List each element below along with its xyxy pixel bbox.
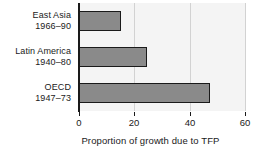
x-tick-0 [79, 112, 80, 116]
category-label-line2: 1947–73 [0, 93, 71, 104]
bar-2 [79, 83, 210, 103]
x-tick-40 [190, 112, 191, 116]
x-tick-label-0: 0 [64, 117, 94, 129]
category-label-east-asia: East Asia 1966–90 [0, 10, 71, 31]
category-label-latin-america: Latin America 1940–80 [0, 46, 71, 67]
x-tick-label-40: 40 [175, 117, 205, 129]
x-tick-60 [245, 112, 246, 116]
x-tick-label-60: 60 [230, 117, 257, 129]
category-label-line2: 1940–80 [0, 57, 71, 68]
bar-1 [79, 47, 147, 67]
category-label-line1: East Asia [0, 10, 71, 21]
x-axis-title-text: Proportion of growth due to TFP [37, 135, 219, 146]
category-label-oecd: OECD 1947–73 [0, 82, 71, 103]
gridline-60 [245, 3, 246, 111]
bar-chart-figure: East Asia 1966–90 Latin America 1940–80 … [0, 0, 257, 155]
category-label-line2: 1966–90 [0, 21, 71, 32]
x-tick-label-20: 20 [119, 117, 149, 129]
bar-0 [79, 11, 121, 31]
category-label-line1: Latin America [0, 46, 71, 57]
x-tick-20 [134, 112, 135, 116]
category-axis-labels: East Asia 1966–90 Latin America 1940–80 … [0, 3, 75, 111]
plot-area [79, 3, 245, 111]
category-label-line1: OECD [0, 82, 71, 93]
y-axis-line [78, 3, 80, 112]
x-axis-title: Proportion of growth due to TFP [0, 135, 257, 146]
